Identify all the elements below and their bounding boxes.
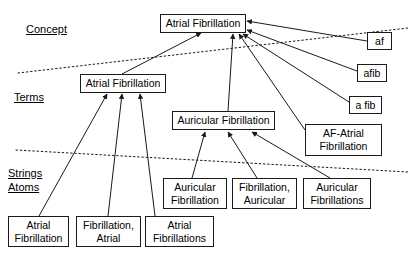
node-atom-atrial-fibrillation[interactable]: Atrial Fibrillation: [8, 216, 69, 247]
concept-term-atom-diagram: ConceptTermsStringsAtoms Atrial Fibrilla…: [0, 0, 408, 259]
edge-atom5-to-term-auricular: [228, 132, 257, 178]
node-term-auricular-fibrillation[interactable]: Auricular Fibrillation: [172, 111, 275, 130]
tier-label-terms: Terms: [14, 91, 44, 103]
node-term-af[interactable]: af: [367, 32, 392, 50]
edge-atom4-to-term-auricular: [192, 132, 205, 178]
node-atom-fibrillation-atrial[interactable]: Fibrillation, Atrial: [76, 216, 141, 247]
node-atom-auricular-fibrillations[interactable]: Auricular Fibrillations: [303, 178, 371, 209]
tier-label-atoms: Atoms: [8, 181, 39, 193]
edge-a-fib-to-concept: [243, 34, 349, 102]
node-atom-auricular-fibrillation[interactable]: Auricular Fibrillation: [163, 178, 227, 209]
node-atom-fibrillation-auricular[interactable]: Fibrillation, Auricular: [232, 178, 297, 209]
node-term-af-atrial-fibrillation[interactable]: AF-Atrial Fibrillation: [305, 124, 382, 156]
edge-af-to-concept: [247, 21, 367, 41]
tier-label-strings: Strings: [8, 167, 42, 179]
node-atom-atrial-fibrillations[interactable]: Atrial Fibrillations: [145, 216, 214, 247]
node-term-atrial-fibrillation[interactable]: Atrial Fibrillation: [80, 74, 166, 93]
tier-label-concept: Concept: [26, 23, 67, 35]
concept-terms-divider: [18, 28, 408, 73]
edge-atom3-to-term-af: [140, 94, 155, 216]
node-term-a-fib[interactable]: a fib: [349, 96, 382, 114]
node-concept-atrial-fibrillation[interactable]: Atrial Fibrillation: [160, 14, 246, 33]
node-term-afib[interactable]: afib: [357, 64, 387, 82]
edge-auricular-to-concept: [228, 34, 233, 111]
